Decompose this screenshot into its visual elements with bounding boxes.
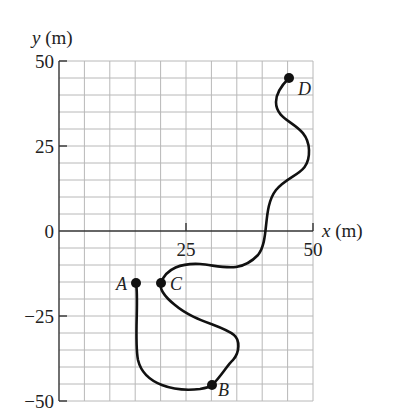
x-axis-label: x (m) [321, 220, 363, 242]
point-c-marker [156, 278, 166, 288]
point-c-label: C [170, 274, 183, 294]
y-tick-neg50: −50 [24, 391, 54, 412]
y-tick-0: 0 [45, 221, 55, 242]
path-diagram: y (m) x (m) 50 25 0 −25 −50 25 50 A B C … [0, 0, 400, 420]
y-tick-50: 50 [35, 51, 54, 72]
y-tick-25: 25 [35, 136, 54, 157]
point-a-label: A [115, 274, 128, 294]
x-tick-50: 50 [304, 239, 323, 260]
point-b-label: B [218, 380, 229, 400]
y-axis-label: y (m) [30, 27, 73, 49]
point-d-marker [284, 73, 294, 83]
trajectory-path [136, 78, 309, 390]
point-a-marker [131, 278, 141, 288]
y-tick-neg25: −25 [24, 306, 54, 327]
point-b-marker [207, 380, 217, 390]
point-d-label: D [297, 79, 311, 99]
x-tick-25: 25 [177, 239, 196, 260]
